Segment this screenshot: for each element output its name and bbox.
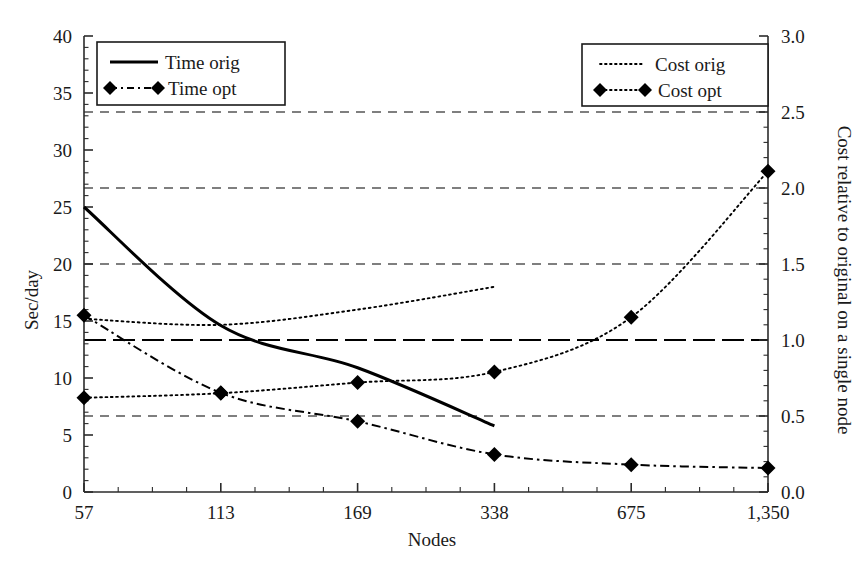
y-axis-tick-label: 15 bbox=[53, 311, 72, 332]
y-axis-title: Sec/day bbox=[21, 269, 42, 330]
chart-canvas: 0510152025303540 0.00.51.01.52.02.53.0 5… bbox=[0, 0, 864, 574]
x-axis-tick-label: 113 bbox=[207, 502, 235, 523]
y2-axis-tick-label: 2.0 bbox=[781, 178, 805, 199]
legend-left-label-0: Time orig bbox=[165, 52, 240, 73]
y-axis-tick-label: 30 bbox=[53, 140, 72, 161]
y-axis-tick-label: 5 bbox=[63, 425, 73, 446]
x-axis-tick-label: 675 bbox=[617, 502, 646, 523]
y-axis-tick-label: 20 bbox=[53, 254, 72, 275]
x-axis-tick-label: 169 bbox=[343, 502, 372, 523]
legend-left[interactable]: Time orig Time opt bbox=[97, 42, 285, 105]
legend-right-label-0: Cost orig bbox=[655, 54, 726, 75]
y2-axis-tick-label: 1.5 bbox=[781, 254, 805, 275]
y2-axis-tick-label: 3.0 bbox=[781, 26, 805, 47]
y-axis-tick-label: 40 bbox=[53, 26, 72, 47]
legend-right-label-1: Cost opt bbox=[658, 80, 723, 101]
x-axis-title: Nodes bbox=[408, 529, 457, 550]
y-axis-tick-label: 10 bbox=[53, 368, 72, 389]
x-axis-tick-label: 338 bbox=[480, 502, 509, 523]
x-axis-tick-label: 1,350 bbox=[747, 502, 790, 523]
y-axis-tick-label: 25 bbox=[53, 197, 72, 218]
x-axis-tick-label: 57 bbox=[75, 502, 94, 523]
y2-axis-tick-label: 2.5 bbox=[781, 102, 805, 123]
y-axis-tick-label: 0 bbox=[63, 482, 73, 503]
y2-axis-tick-label: 0.0 bbox=[781, 482, 805, 503]
legend-right[interactable]: Cost orig Cost opt bbox=[582, 44, 768, 106]
y2-axis-tick-label: 0.5 bbox=[781, 406, 805, 427]
y2-axis-title: Cost relative to original on a single no… bbox=[834, 126, 855, 435]
chart-figure: 0510152025303540 0.00.51.01.52.02.53.0 5… bbox=[0, 0, 864, 574]
y-axis-tick-label: 35 bbox=[53, 83, 72, 104]
legend-left-label-1: Time opt bbox=[168, 78, 237, 99]
y2-axis-tick-label: 1.0 bbox=[781, 330, 805, 351]
